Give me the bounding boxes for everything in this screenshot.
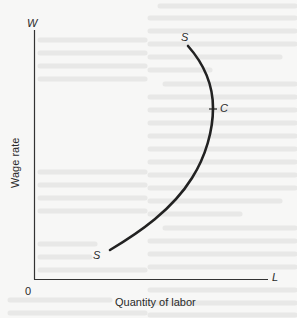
y-axis-title: Wage rate <box>10 138 21 188</box>
x-axis-end-label: L <box>272 272 278 283</box>
x-axis-title: Quantity of labor <box>115 297 196 308</box>
chart-plot-area <box>0 0 297 318</box>
point-c-label: C <box>220 103 228 114</box>
labor-supply-curve <box>110 46 213 250</box>
origin-label: 0 <box>25 286 31 297</box>
curve-bottom-label: S <box>93 250 100 261</box>
labor-supply-figure: W Wage rate 0 L Quantity of labor S S C <box>0 0 297 318</box>
y-axis-end-label: W <box>27 18 37 29</box>
curve-top-label: S <box>181 32 188 43</box>
